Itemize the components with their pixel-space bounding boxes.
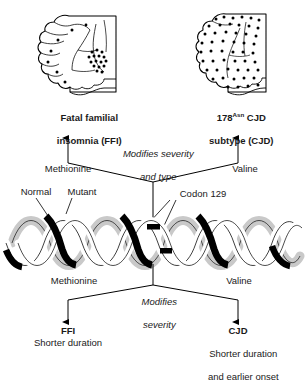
cjd-outcome-detail-line1: Shorter duration <box>209 348 277 359</box>
lower-note-line1: Modifies <box>142 296 177 307</box>
cjd-outcome-detail-line2: and earlier onset <box>208 371 279 382</box>
upper-allele-valine: Valine <box>210 163 280 174</box>
brain-sagittal-sparse-vacuolation-icon <box>38 15 116 94</box>
cjd-outcome-detail: Shorter duration and earlier onset <box>176 337 300 384</box>
cjd-caption-prefix: 178 <box>217 112 233 123</box>
brain-sagittal-dense-vacuolation-icon <box>196 14 266 95</box>
upper-note-line1: Modifies severity <box>123 148 194 159</box>
upper-note-line2: and type <box>140 171 176 182</box>
lower-modifier-note: Modifies severity <box>118 285 190 341</box>
lower-note-line2: severity <box>143 319 176 330</box>
cjd-outcome-title: CJD <box>194 325 282 336</box>
upper-allele-methionine: Methionine <box>20 163 116 174</box>
cjd-caption-line2: subtype (CJD) <box>209 135 273 146</box>
lower-allele-valine: Valine <box>204 275 274 286</box>
ffi-outcome-title: FFI <box>24 325 112 336</box>
helix-label-codon-129: Codon 129 <box>163 188 243 199</box>
ffi-outcome-detail: Shorter duration <box>8 337 128 348</box>
lower-allele-methionine: Methionine <box>26 275 122 286</box>
ffi-caption-line1: Fatal familial <box>61 112 119 123</box>
helix-label-mutant: Mutant <box>54 186 110 197</box>
dna-double-helix <box>6 216 302 267</box>
cjd-caption-suffix: CJD <box>244 112 266 123</box>
cjd-caption-superscript: Asn <box>233 111 245 118</box>
